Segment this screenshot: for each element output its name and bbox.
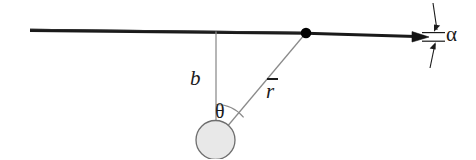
diagram-canvas: [0, 0, 476, 159]
incident-trajectory: [30, 29, 429, 42]
polar-angle-label: θ: [215, 101, 225, 121]
radius-vector-line: [216, 34, 306, 141]
scattering-angle-label: α: [446, 24, 457, 45]
alpha-lower-arrowhead-icon: [430, 42, 436, 49]
particle-position-dot: [301, 28, 312, 39]
radius-vector-overbar-icon: [267, 78, 278, 80]
nucleus-circle: [196, 121, 235, 160]
radius-vector-label-glyph: r: [266, 76, 274, 102]
alpha-upper-arrowhead-icon: [434, 25, 440, 32]
scattering-diagram-figure: b r θ α: [0, 0, 476, 159]
impact-parameter-label: b: [190, 68, 201, 89]
radius-vector-label: r: [266, 76, 274, 102]
alpha-dimension-marker: [422, 3, 445, 68]
